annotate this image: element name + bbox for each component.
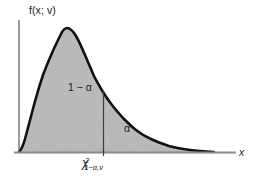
chi-squared-distribution-figure: f(x; v) x 1 − α α χ21−α,v: [0, 0, 256, 183]
x-axis-label: x: [239, 147, 244, 158]
density-fill-area: [19, 28, 214, 152]
chi-subscript: 1−α,v: [84, 163, 103, 172]
confidence-area-label: 1 − α: [68, 82, 92, 93]
tail-area-label: α: [124, 123, 130, 134]
distribution-plot: [0, 0, 256, 183]
y-axis-label: f(x; v): [29, 5, 56, 16]
critical-value-label: χ21−α,v: [82, 157, 103, 169]
